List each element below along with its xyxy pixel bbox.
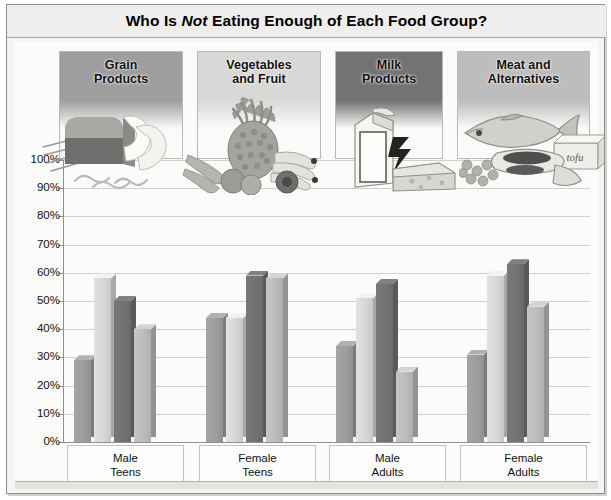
gridline xyxy=(63,216,590,217)
bar-front-face xyxy=(467,355,484,442)
bar-front-face xyxy=(376,284,393,442)
bar-female-teens-meat-and-alternatives xyxy=(266,273,283,442)
category-label-text: Male Teens xyxy=(110,451,141,479)
bar-male-teens-meat-and-alternatives xyxy=(134,324,151,442)
food-group-panel-4: Meat and Alternatives xyxy=(457,51,590,159)
x-axis-line xyxy=(63,442,590,443)
y-axis-tick-label: 40% xyxy=(16,322,60,334)
bar-male-adults-milk-products xyxy=(376,279,393,442)
bar-front-face xyxy=(134,329,151,442)
y-axis-tick-label: 90% xyxy=(16,181,60,193)
y-axis-tick-label: 70% xyxy=(16,238,60,250)
bar-front-face xyxy=(246,276,263,442)
bar-male-adults-vegetables-and-fruit xyxy=(356,293,373,442)
category-label-text: Male Adults xyxy=(372,451,404,479)
bar-front-face xyxy=(206,318,223,442)
bar-male-adults-grain-products xyxy=(336,341,353,442)
title-text-emphasis: Not xyxy=(181,12,207,29)
category-label-box-2: Female Teens xyxy=(199,445,316,485)
bar-male-teens-milk-products xyxy=(114,296,131,442)
bar-side-face xyxy=(413,367,418,438)
food-group-label: Milk Products xyxy=(362,58,416,86)
y-axis-tick-label: 20% xyxy=(16,379,60,391)
category-label-box-3: Male Adults xyxy=(329,445,446,485)
bar-front-face xyxy=(487,276,504,442)
bar-male-adults-meat-and-alternatives xyxy=(396,367,413,443)
y-axis-tick-label: 30% xyxy=(16,350,60,362)
food-group-panel-2: Vegetables and Fruit xyxy=(197,51,321,159)
bar-side-face xyxy=(151,324,156,437)
title-text-after: Eating Enough of Each Food Group? xyxy=(208,12,488,29)
bar-female-teens-milk-products xyxy=(246,271,263,442)
food-group-label: Vegetables and Fruit xyxy=(226,58,291,86)
bar-front-face xyxy=(266,278,283,442)
baseboard-shelf xyxy=(15,481,598,489)
bar-front-face xyxy=(94,278,111,442)
chart-poster: Who Is Not Eating Enough of Each Food Gr… xyxy=(0,0,611,500)
page-title: Who Is Not Eating Enough of Each Food Gr… xyxy=(126,12,488,30)
bar-front-face xyxy=(114,301,131,442)
bar-female-adults-grain-products xyxy=(467,350,484,442)
bar-female-teens-grain-products xyxy=(206,313,223,442)
y-axis-tick-label: 100% xyxy=(16,153,60,165)
category-label-text: Female Adults xyxy=(504,451,542,479)
bar-front-face xyxy=(507,264,524,442)
food-group-label: Meat and Alternatives xyxy=(488,58,560,86)
bar-male-teens-vegetables-and-fruit xyxy=(94,273,111,442)
bar-front-face xyxy=(336,346,353,442)
chart-card: Who Is Not Eating Enough of Each Food Gr… xyxy=(6,4,605,494)
bar-female-teens-vegetables-and-fruit xyxy=(226,313,243,442)
y-axis-tick-label: 0% xyxy=(16,435,60,447)
gridline xyxy=(63,245,590,246)
y-axis-tick-label: 60% xyxy=(16,266,60,278)
bar-side-face xyxy=(544,302,549,437)
y-axis-tick-label: 80% xyxy=(16,209,60,221)
y-axis-tick-label: 50% xyxy=(16,294,60,306)
bar-side-face xyxy=(283,273,288,437)
plot-area: Grain Products Vegetables and Fruit xyxy=(15,41,598,489)
category-label-box-4: Female Adults xyxy=(460,445,587,485)
chart-title-bar: Who Is Not Eating Enough of Each Food Gr… xyxy=(7,5,606,38)
bar-front-face xyxy=(527,307,544,442)
bar-front-face xyxy=(396,372,413,443)
food-group-label: Grain Products xyxy=(94,58,148,86)
gridline xyxy=(63,188,590,189)
bar-female-adults-meat-and-alternatives xyxy=(527,302,544,442)
gridline xyxy=(63,160,590,161)
food-group-panel-3: Milk Products xyxy=(335,51,443,159)
category-label-box-1: Male Teens xyxy=(67,445,184,485)
bar-female-adults-milk-products xyxy=(507,259,524,442)
title-text-before: Who Is xyxy=(126,12,182,29)
bar-front-face xyxy=(356,298,373,442)
bar-front-face xyxy=(74,360,91,442)
food-group-panel-1: Grain Products xyxy=(59,51,183,159)
category-label-text: Female Teens xyxy=(238,451,276,479)
bar-front-face xyxy=(226,318,243,442)
y-axis-tick-label: 10% xyxy=(16,407,60,419)
y-axis-line xyxy=(63,160,64,443)
bar-female-adults-vegetables-and-fruit xyxy=(487,271,504,442)
bar-male-teens-grain-products xyxy=(74,355,91,442)
